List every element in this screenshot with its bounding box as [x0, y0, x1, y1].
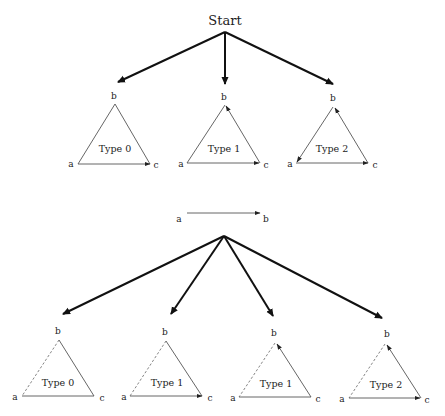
vertex-c-label: c	[99, 393, 104, 403]
middle-edge: a b	[176, 213, 269, 224]
bottom-triangle-type1-first: b a c Type 1	[121, 327, 212, 403]
top-triangle-type0: b a c Type 0	[68, 91, 158, 170]
start-label: Start	[208, 13, 242, 28]
vertex-a-label: a	[68, 159, 74, 169]
vertex-a-label: a	[287, 159, 293, 169]
vertex-a-label: a	[178, 159, 184, 169]
vertex-c-label: c	[424, 395, 429, 405]
vertex-a-label: a	[339, 394, 345, 404]
vertex-a-label: a	[121, 392, 127, 402]
middle-a-label: a	[176, 214, 182, 224]
vertex-b-label: b	[111, 91, 117, 101]
type-label: Type 1	[260, 378, 292, 389]
vertex-b-label: b	[330, 93, 336, 103]
vertex-b-label: b	[221, 92, 227, 102]
bottom-triangle-type0: b a c Type 0	[12, 326, 104, 403]
middle-b-label: b	[263, 214, 269, 224]
branch-arrow-icon	[225, 32, 333, 84]
vertex-b-label: b	[271, 328, 277, 338]
vertex-c-label: c	[263, 160, 268, 170]
type-label: Type 2	[370, 379, 402, 390]
vertex-a-label: a	[12, 392, 18, 402]
bottom-triangle-type2: b a c Type 2	[339, 329, 429, 405]
vertex-b-label: b	[384, 329, 390, 339]
top-triangle-type1: b a c Type 1	[178, 92, 268, 170]
type-label: Type 2	[316, 143, 348, 154]
type-label: Type 0	[42, 377, 74, 388]
tree-diagram: Start b a c Type 0 b a c Type 1 b a c Ty…	[0, 0, 445, 416]
middle-branches	[63, 236, 382, 318]
type-label: Type 1	[208, 143, 240, 154]
branch-arrow-icon	[171, 236, 224, 314]
branch-arrow-icon	[224, 236, 382, 318]
vertex-c-label: c	[207, 393, 212, 403]
type-label: Type 0	[99, 143, 131, 154]
vertex-b-label: b	[55, 326, 61, 336]
vertex-c-label: c	[153, 160, 158, 170]
branch-arrow-icon	[118, 32, 225, 82]
top-triangle-type2: b a c Type 2	[287, 93, 377, 170]
type-label: Type 1	[151, 377, 183, 388]
vertex-c-label: c	[315, 394, 320, 404]
vertex-a-label: a	[230, 393, 236, 403]
root-branches	[118, 32, 333, 84]
vertex-b-label: b	[162, 327, 168, 337]
bottom-triangle-type1-second: b a c Type 1	[230, 328, 320, 404]
branch-arrow-icon	[63, 236, 224, 314]
vertex-c-label: c	[372, 160, 377, 170]
